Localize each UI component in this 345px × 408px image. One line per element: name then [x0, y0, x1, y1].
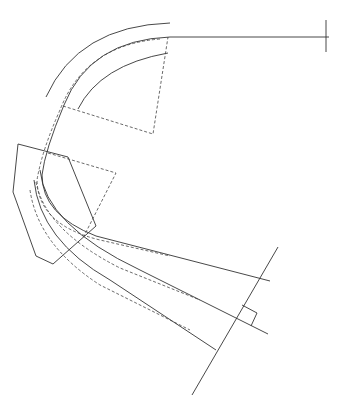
track-b	[40, 170, 238, 319]
track-c-dashed	[30, 190, 190, 330]
outer-arc	[46, 23, 170, 97]
technical-diagram	[0, 0, 345, 408]
inner-arc	[78, 53, 168, 109]
section-line	[192, 247, 278, 395]
dashed-quad-top	[63, 37, 168, 134]
main-track	[42, 37, 329, 281]
right-angle-marker	[242, 305, 257, 326]
track-c	[34, 180, 216, 350]
dashed-track	[37, 39, 170, 256]
